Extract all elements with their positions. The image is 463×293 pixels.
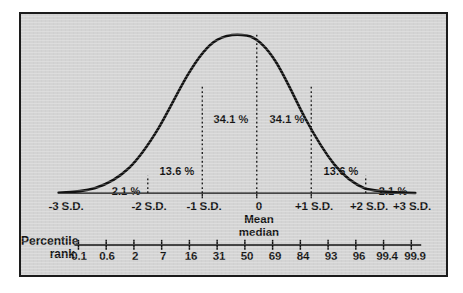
normal-distribution-plot: [21, 14, 446, 277]
percentile-label-2: 2: [132, 250, 138, 262]
figure-frame: 2.1 % 13.6 % 34.1 % 34.1 % 13.6 % 2.1 % …: [19, 12, 448, 277]
percentile-label-5: 31: [213, 250, 225, 262]
mean-caption-line: Mean: [239, 213, 279, 226]
area-label-outer-left: 2.1 %: [112, 186, 141, 198]
area-label-outer-right: 2.1 %: [379, 186, 408, 198]
percentile-label-3: 7: [160, 250, 166, 262]
percentile-label-10: 96: [353, 250, 365, 262]
percentile-label-8: 84: [297, 250, 309, 262]
percentile-label-11: 99.4: [376, 250, 398, 262]
median-caption-line: median: [239, 226, 279, 239]
sd-label-minus-1: -1 S.D.: [186, 200, 221, 212]
percentile-title-line2: rank: [21, 248, 75, 261]
sd-label-plus-3: +3 S.D.: [393, 200, 431, 212]
percentile-rank-axis-title: Percentile rank: [21, 235, 75, 262]
area-label-inner-right: 13.6 %: [324, 166, 359, 178]
sd-label-plus-2: +2 S.D.: [350, 200, 388, 212]
sd-label-minus-2: -2 S.D.: [131, 200, 166, 212]
percentile-label-0: 0.1: [71, 250, 86, 262]
percentile-label-9: 93: [325, 250, 337, 262]
sd-label-plus-1: +1 S.D.: [295, 200, 333, 212]
percentile-label-4: 16: [185, 250, 197, 262]
percentile-label-1: 0.6: [99, 250, 114, 262]
percentile-label-7: 69: [269, 250, 281, 262]
percentile-label-12: 99.9: [404, 250, 426, 262]
sd-label-minus-3: -3 S.D.: [48, 200, 83, 212]
area-label-inner-left: 13.6 %: [160, 166, 195, 178]
percentile-title-line1: Percentile: [21, 235, 75, 248]
area-label-center-left: 34.1 %: [214, 114, 249, 126]
area-label-center-right: 34.1 %: [270, 114, 305, 126]
percentile-label-6: 50: [241, 250, 253, 262]
mean-median-caption: Mean median: [239, 213, 279, 239]
sd-label-zero: 0: [256, 200, 262, 212]
